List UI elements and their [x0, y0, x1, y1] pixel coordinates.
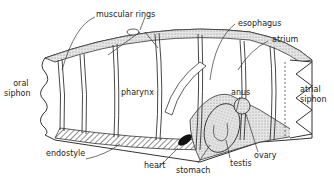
- label-testis: testis: [230, 160, 252, 168]
- label-muscular-rings: muscular rings: [96, 11, 155, 19]
- label-oral-siphon: oral siphon: [4, 80, 31, 98]
- label-endostyle: endostyle: [46, 150, 85, 158]
- label-esophagus: esophagus: [238, 20, 281, 28]
- label-stomach: stomach: [176, 167, 210, 175]
- label-heart: heart: [144, 162, 165, 170]
- label-atrial-siphon: atrial siphon: [300, 86, 327, 104]
- label-anus: anus: [231, 89, 250, 97]
- label-atrium: atrium: [272, 36, 298, 44]
- label-pharynx: pharynx: [121, 89, 154, 97]
- label-ovary: ovary: [254, 152, 277, 160]
- tunicate-diagram: [0, 0, 334, 186]
